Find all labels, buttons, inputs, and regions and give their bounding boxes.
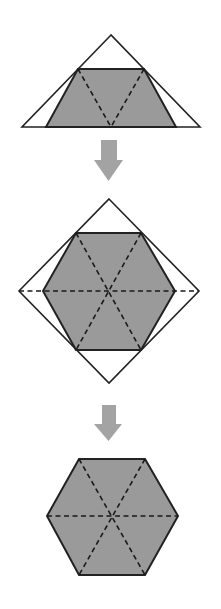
step-3-final-hexagon xyxy=(47,459,178,575)
folding-diagram xyxy=(0,0,221,609)
arrow-head xyxy=(94,160,123,181)
arrow-down-icon xyxy=(94,140,123,181)
arrow-head xyxy=(94,424,122,441)
step-2-diamond-hexagon xyxy=(19,199,199,383)
step-1-triangle-fold xyxy=(22,35,200,127)
shaded-trapezoid xyxy=(46,69,176,127)
arrow-shaft xyxy=(101,140,117,161)
shaded-hexagon xyxy=(47,459,178,575)
arrow-shaft xyxy=(102,405,116,425)
arrow-down-icon xyxy=(94,405,122,441)
